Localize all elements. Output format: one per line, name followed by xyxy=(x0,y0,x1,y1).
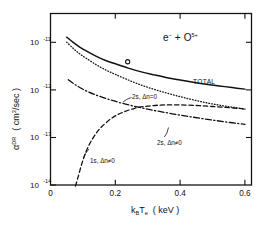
reaction-annotation: e−+O5+ xyxy=(163,32,198,43)
y-tick-label-0: 10 xyxy=(30,38,39,47)
y-tick-exponent-0: -11 xyxy=(43,36,51,42)
leader-2s-dn0 xyxy=(123,98,132,103)
y-title-units-open: ( cm xyxy=(11,113,21,131)
y-tick-exponent-3: -14 xyxy=(43,178,51,184)
x-axis-title: kBTe( keV ) xyxy=(131,205,179,216)
x-tick-label-0: 0 xyxy=(48,189,53,198)
x-tick-labels: 0 0.2 0.4 0.6 xyxy=(48,189,251,198)
measured-point xyxy=(126,60,130,64)
label-total: TOTAL xyxy=(193,78,215,85)
y-title-sup-DR: DR xyxy=(11,137,17,145)
label-1s-delta-n-nonzero: 1s, Δn≠0 xyxy=(90,157,115,164)
x-tick-label-3: 0.6 xyxy=(239,189,251,198)
svg-text:αDR( cm3/sec ): αDR( cm3/sec ) xyxy=(11,88,21,150)
label-2s-delta-n-0: 2s, Δn=0 xyxy=(132,93,158,100)
x-title-sub-e: e xyxy=(145,210,148,216)
dielectronic-recombination-chart: 10 -11 10 -12 10 -13 10 -14 0 0.2 0.4 0.… xyxy=(0,0,268,227)
leader-2s-dnne0 xyxy=(164,128,168,138)
figure-container: 10 -11 10 -12 10 -13 10 -14 0 0.2 0.4 0.… xyxy=(0,0,268,227)
y-axis-title: αDR( cm3/sec ) xyxy=(11,88,21,150)
x-tick-label-1: 0.2 xyxy=(110,189,122,198)
x-title-units: ( keV ) xyxy=(153,205,180,215)
y-tick-exponent-1: -12 xyxy=(43,83,51,89)
y-tick-label-2: 10 xyxy=(30,133,39,142)
reaction-electron-charge: − xyxy=(169,32,172,38)
y-tick-label-3: 10 xyxy=(30,181,39,190)
y-tick-exponent-2: -13 xyxy=(43,131,51,137)
svg-text:kBTe( keV ): kBTe( keV ) xyxy=(131,205,179,216)
x-tick-label-2: 0.4 xyxy=(174,189,186,198)
y-tick-labels: 10 -11 10 -12 10 -13 10 -14 xyxy=(30,36,51,190)
y-title-units-close: /sec ) xyxy=(11,88,21,110)
data-point-markers xyxy=(126,60,130,64)
reaction-plus: + xyxy=(175,32,181,43)
y-tick-label-1: 10 xyxy=(30,86,39,95)
svg-text:e−+O5+: e−+O5+ xyxy=(163,32,198,43)
curve-labels: TOTAL 2s, Δn=0 2s, Δn≠0 1s, Δn≠0 xyxy=(84,78,216,164)
reaction-ion-charge: 5+ xyxy=(191,32,197,38)
y-axis-ticks xyxy=(51,42,252,185)
label-2s-delta-n-nonzero: 2s, Δn≠0 xyxy=(157,139,182,146)
